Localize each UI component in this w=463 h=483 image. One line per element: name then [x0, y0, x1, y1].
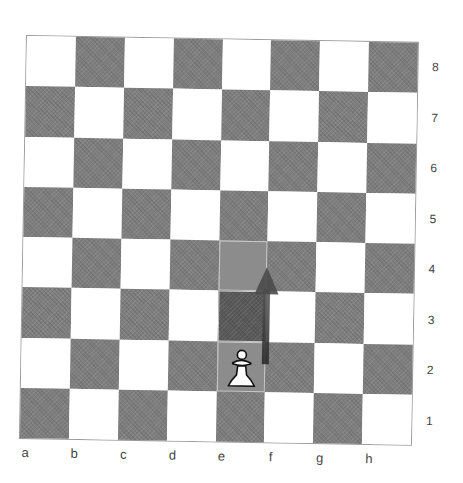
square-f4[interactable]	[267, 241, 317, 292]
square-c1[interactable]	[118, 389, 168, 440]
square-g1[interactable]	[313, 393, 363, 444]
square-h2[interactable]	[363, 343, 413, 394]
square-d7[interactable]	[172, 89, 222, 140]
square-c7[interactable]	[123, 88, 173, 139]
square-a1[interactable]	[20, 388, 70, 439]
square-f2[interactable]	[265, 342, 315, 393]
square-f3[interactable]	[266, 291, 316, 342]
chessboard[interactable]	[19, 35, 419, 446]
square-f5[interactable]	[268, 191, 318, 242]
square-h8[interactable]	[368, 42, 418, 93]
chessboard-container: 87654321 abcdefgh	[19, 35, 419, 446]
square-b5[interactable]	[72, 188, 122, 239]
file-label-a: a	[1, 445, 50, 461]
file-label-h: h	[344, 451, 393, 467]
square-b3[interactable]	[71, 288, 121, 339]
square-g7[interactable]	[318, 91, 368, 142]
square-d2[interactable]	[167, 340, 217, 391]
square-d6[interactable]	[171, 139, 221, 190]
square-e4[interactable]	[218, 240, 268, 291]
square-g3[interactable]	[315, 292, 365, 343]
rank-label-6: 6	[424, 161, 444, 175]
square-b6[interactable]	[73, 137, 123, 188]
square-f7[interactable]	[270, 91, 320, 142]
square-a4[interactable]	[23, 237, 73, 288]
square-h7[interactable]	[367, 92, 417, 143]
file-label-f: f	[246, 449, 295, 465]
rank-label-7: 7	[424, 110, 444, 124]
square-e6[interactable]	[220, 140, 270, 191]
square-e2[interactable]	[216, 341, 266, 392]
square-f1[interactable]	[264, 392, 314, 443]
square-a6[interactable]	[24, 137, 74, 188]
square-e7[interactable]	[221, 90, 271, 141]
square-h3[interactable]	[364, 293, 414, 344]
square-c6[interactable]	[122, 138, 172, 189]
square-d4[interactable]	[169, 240, 219, 291]
square-a2[interactable]	[21, 337, 71, 388]
square-b7[interactable]	[74, 87, 124, 138]
square-c5[interactable]	[121, 188, 171, 239]
square-g8[interactable]	[319, 41, 369, 92]
square-a3[interactable]	[22, 287, 72, 338]
rank-label-4: 4	[422, 262, 442, 276]
rank-label-8: 8	[425, 60, 445, 74]
square-h4[interactable]	[365, 243, 415, 294]
white-pawn-icon[interactable]	[216, 341, 266, 392]
square-f6[interactable]	[269, 141, 319, 192]
square-e8[interactable]	[222, 39, 272, 90]
rank-label-3: 3	[421, 312, 441, 326]
square-h6[interactable]	[366, 142, 416, 193]
square-e3[interactable]	[217, 291, 267, 342]
rank-labels: 87654321	[419, 42, 446, 446]
square-c4[interactable]	[120, 239, 170, 290]
square-d1[interactable]	[167, 390, 217, 441]
square-h5[interactable]	[366, 193, 416, 244]
square-g4[interactable]	[316, 242, 366, 293]
square-h1[interactable]	[362, 394, 412, 445]
file-label-g: g	[295, 450, 344, 466]
square-d5[interactable]	[170, 189, 220, 240]
rank-label-5: 5	[423, 211, 443, 225]
square-a8[interactable]	[26, 36, 76, 87]
file-labels: abcdefgh	[18, 445, 411, 472]
square-d8[interactable]	[173, 39, 223, 90]
file-label-b: b	[50, 445, 99, 461]
square-d3[interactable]	[168, 290, 218, 341]
square-c3[interactable]	[119, 289, 169, 340]
square-g2[interactable]	[314, 343, 364, 394]
square-c2[interactable]	[119, 339, 169, 390]
square-e1[interactable]	[215, 391, 265, 442]
square-b2[interactable]	[70, 338, 120, 389]
file-label-e: e	[197, 448, 246, 464]
rank-label-1: 1	[419, 413, 439, 427]
square-c8[interactable]	[124, 38, 174, 89]
square-a7[interactable]	[25, 86, 75, 137]
file-label-c: c	[99, 446, 148, 462]
file-label-d: d	[148, 447, 197, 463]
square-g5[interactable]	[317, 192, 367, 243]
square-b4[interactable]	[71, 238, 121, 289]
square-e5[interactable]	[219, 190, 269, 241]
square-b1[interactable]	[69, 389, 119, 440]
square-f8[interactable]	[270, 40, 320, 91]
rank-label-2: 2	[420, 363, 440, 377]
square-b8[interactable]	[75, 37, 125, 88]
square-g6[interactable]	[318, 142, 368, 193]
square-a5[interactable]	[23, 187, 73, 238]
